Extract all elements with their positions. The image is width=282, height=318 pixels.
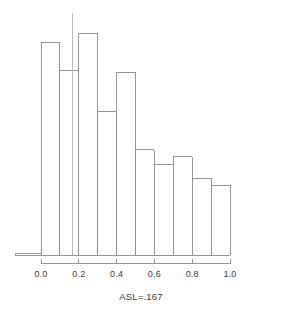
x-axis-tick-label: 0.0 [34, 269, 47, 279]
histogram-bar [98, 112, 117, 255]
histogram-figure: 0.00.20.40.60.81.0 ASL=.167 [0, 0, 282, 318]
x-axis-label: ASL=.167 [119, 291, 163, 302]
histogram-bar [211, 185, 230, 255]
x-axis-tick-label: 1.0 [223, 269, 236, 279]
x-axis-tick-label: 0.4 [110, 269, 123, 279]
histogram-bar [41, 42, 60, 255]
x-axis-tick-label: 0.6 [148, 269, 161, 279]
x-axis [41, 259, 230, 264]
x-axis-tick-label: 0.2 [72, 269, 85, 279]
histogram-bar [79, 33, 98, 255]
histogram-bar [192, 178, 211, 255]
histogram-bar [173, 157, 192, 255]
histogram-bar [154, 165, 173, 255]
x-axis-tick-label: 0.8 [186, 269, 199, 279]
histogram-bar [136, 150, 155, 255]
histogram-bars [15, 33, 230, 255]
histogram-bar [60, 70, 79, 255]
histogram-bar [117, 72, 136, 255]
